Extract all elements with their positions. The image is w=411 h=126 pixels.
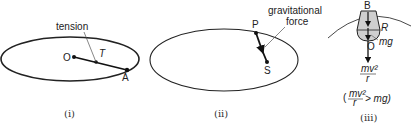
- centripetal-force-fraction: mv² r: [360, 63, 378, 84]
- center-point: [72, 55, 76, 59]
- weight-label: mg: [379, 36, 393, 47]
- center-label: O: [63, 52, 71, 63]
- elliptical-orbit: [150, 29, 298, 91]
- diagram-canvas: tension O T A (i) P S gravitational forc…: [0, 0, 411, 126]
- focus-s: [265, 60, 269, 64]
- condition-open: (: [343, 92, 347, 103]
- caption-iii: (iii): [360, 112, 377, 123]
- point-p-label: P: [252, 19, 259, 30]
- panel-iii: B R mg O mv² r ( mv² r > mg) (iii): [328, 0, 411, 123]
- focus-s-label: S: [264, 65, 271, 76]
- condition-relation: > mg): [365, 93, 391, 104]
- condition-numerator: mv²: [349, 88, 366, 99]
- bucket-top-label: B: [364, 0, 371, 11]
- centripetal-numerator: mv²: [361, 63, 378, 74]
- gravity-leader: [265, 27, 285, 47]
- point-a-label: A: [122, 72, 129, 83]
- point-p: [254, 31, 258, 35]
- caption-i: (i): [64, 108, 75, 119]
- condition-expression: ( mv² r > mg): [343, 88, 391, 108]
- reaction-label: R: [381, 22, 388, 33]
- center-o-label: O: [367, 41, 375, 52]
- gravity-vector: [256, 33, 262, 50]
- panel-i: tension O T A (i): [1, 21, 139, 119]
- tension-symbol: T: [99, 48, 106, 59]
- tension-label: tension: [56, 21, 88, 32]
- tension-leader: [84, 32, 96, 62]
- force-label: force: [286, 16, 309, 27]
- centripetal-denominator: r: [366, 73, 370, 84]
- gravitational-label: gravitational: [268, 5, 322, 16]
- caption-ii: (ii): [214, 108, 228, 119]
- panel-ii: P S gravitational force (ii): [150, 5, 322, 119]
